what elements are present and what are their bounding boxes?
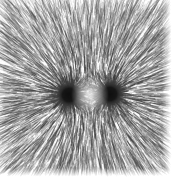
photographic-plate	[0, 0, 172, 177]
iron-filings-figure: Iron filings field pattern magnetic fiel…	[0, 0, 178, 186]
filings-canvas	[0, 0, 172, 177]
